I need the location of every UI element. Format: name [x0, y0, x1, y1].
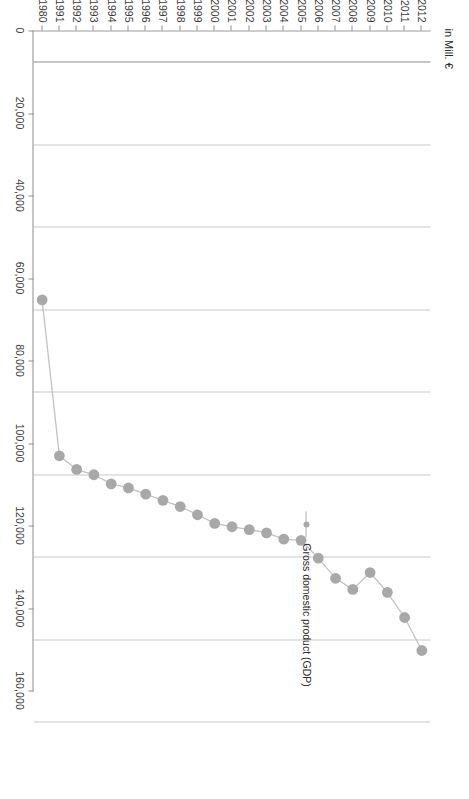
value-tick: [28, 608, 33, 609]
legend-label: Gross domestic product (GDP): [300, 543, 312, 687]
category-tick-label: 2011: [398, 0, 410, 22]
value-tick-label: 140,000: [13, 588, 25, 627]
category-tick: [265, 25, 266, 30]
category-tick-label: 1992: [70, 0, 82, 22]
category-tick-label: 2012: [415, 0, 427, 22]
category-tick-label: 1996: [139, 0, 151, 22]
category-tick: [196, 25, 197, 30]
category-tick-label: 1998: [174, 0, 186, 22]
category-tick: [75, 25, 76, 30]
category-tick: [420, 25, 421, 30]
data-point[interactable]: [416, 645, 427, 656]
category-tick-label: 2004: [277, 0, 289, 22]
data-point[interactable]: [243, 524, 254, 535]
data-point[interactable]: [347, 584, 358, 595]
category-tick: [282, 25, 283, 30]
value-tick-label: 160,000: [13, 671, 25, 710]
category-tick-label: 1997: [156, 0, 168, 22]
value-tick-label: 60,000: [13, 261, 25, 294]
legend-marker-icon: [301, 511, 310, 537]
category-tick: [213, 25, 214, 30]
category-tick-label: 2000: [208, 0, 220, 22]
data-point[interactable]: [140, 488, 151, 499]
category-tick: [351, 25, 352, 30]
value-tick: [28, 360, 33, 361]
category-tick: [248, 25, 249, 30]
data-point[interactable]: [364, 567, 375, 578]
category-tick-label: 2009: [364, 0, 376, 22]
data-point[interactable]: [209, 518, 220, 529]
data-point[interactable]: [36, 294, 47, 305]
category-tick-label: 2007: [329, 0, 341, 22]
category-tick-label: 1994: [105, 0, 117, 22]
data-point[interactable]: [105, 478, 116, 489]
series-layer: [0, 0, 469, 799]
category-tick-label: 2005: [295, 0, 307, 22]
category-tick: [231, 25, 232, 30]
category-tick: [317, 25, 318, 30]
value-tick-label: 80,000: [13, 344, 25, 377]
category-tick-label: 1995: [122, 0, 134, 22]
value-tick: [28, 195, 33, 196]
value-tick-label: 120,000: [13, 506, 25, 545]
category-tick: [41, 25, 42, 30]
category-tick: [179, 25, 180, 30]
category-tick: [92, 25, 93, 30]
chart-legend: Gross domestic product (GDP): [300, 511, 312, 687]
category-tick: [110, 25, 111, 30]
category-tick: [403, 25, 404, 30]
value-tick-label: 20,000: [13, 96, 25, 129]
category-tick: [334, 25, 335, 30]
data-point[interactable]: [157, 494, 168, 505]
value-tick: [28, 278, 33, 279]
value-tick-label: 40,000: [13, 179, 25, 212]
category-tick-label: 2001: [226, 0, 238, 22]
category-tick-label: 1993: [87, 0, 99, 22]
data-point[interactable]: [174, 501, 185, 512]
value-tick-label: 0: [13, 27, 25, 33]
data-point[interactable]: [278, 533, 289, 544]
data-point[interactable]: [192, 509, 203, 520]
data-point[interactable]: [399, 612, 410, 623]
category-tick-label: 2003: [260, 0, 272, 22]
category-tick: [386, 25, 387, 30]
data-point[interactable]: [53, 450, 64, 461]
value-tick: [28, 525, 33, 526]
chart-page: in Mill. € Gross domestic product (GDP) …: [0, 0, 469, 799]
value-tick-label: 100,000: [13, 423, 25, 462]
data-point[interactable]: [88, 469, 99, 480]
data-point[interactable]: [123, 482, 134, 493]
category-tick-label: 2008: [346, 0, 358, 22]
data-point[interactable]: [261, 527, 272, 538]
category-tick-label: 1991: [53, 0, 65, 22]
category-tick-label: 1999: [191, 0, 203, 22]
category-tick-label: 1980: [36, 0, 48, 22]
category-tick: [300, 25, 301, 30]
category-tick-label: 2002: [243, 0, 255, 22]
category-tick-label: 2010: [381, 0, 393, 22]
category-tick: [161, 25, 162, 30]
category-tick: [144, 25, 145, 30]
data-point[interactable]: [71, 464, 82, 475]
value-tick: [28, 690, 33, 691]
rotated-chart-stage: in Mill. € Gross domestic product (GDP) …: [0, 0, 469, 799]
value-tick: [28, 113, 33, 114]
value-tick: [28, 443, 33, 444]
value-tick: [28, 30, 33, 31]
category-tick: [369, 25, 370, 30]
data-point[interactable]: [226, 521, 237, 532]
category-tick: [127, 25, 128, 30]
category-tick: [58, 25, 59, 30]
category-tick-label: 2006: [312, 0, 324, 22]
